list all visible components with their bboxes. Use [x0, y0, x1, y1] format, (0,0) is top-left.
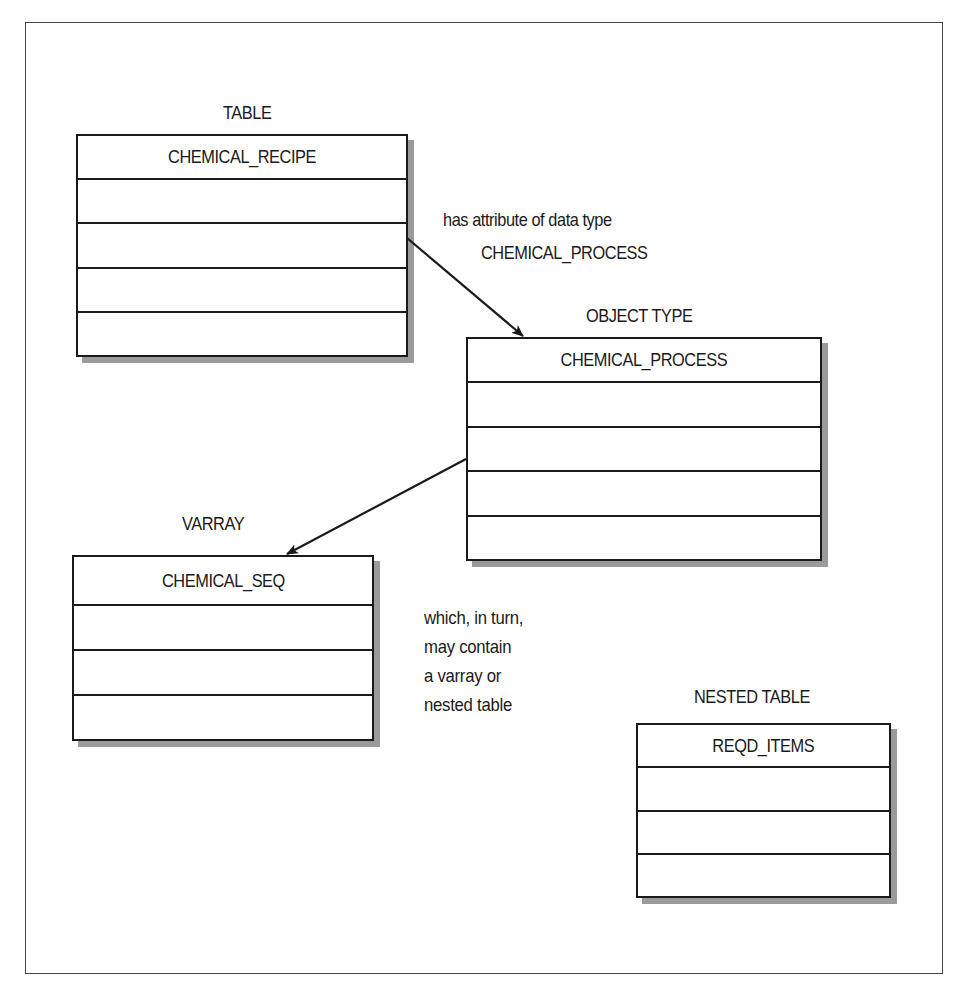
attribute-row [468, 381, 820, 425]
note-line: nested table [424, 690, 523, 719]
attribute-row [74, 694, 372, 739]
entity-kind-label-varray: VARRAY [182, 513, 244, 535]
entity-header: CHEMICAL_RECIPE [78, 136, 406, 178]
attribute-row [78, 311, 406, 355]
note-line: may contain [424, 632, 523, 661]
attribute-row [74, 604, 372, 649]
entity-box-chemical-seq: CHEMICAL_SEQ [72, 555, 374, 741]
entity-name: CHEMICAL_RECIPE [168, 146, 316, 168]
attribute-row [468, 470, 820, 514]
entity-name: REQD_ITEMS [713, 735, 815, 757]
entity-header: CHEMICAL_SEQ [74, 557, 372, 604]
entity-name: CHEMICAL_SEQ [162, 570, 285, 592]
entity-header: REQD_ITEMS [638, 725, 889, 766]
attribute-row [78, 267, 406, 311]
attribute-row [78, 178, 406, 222]
entity-header: CHEMICAL_PROCESS [468, 339, 820, 381]
annotation-note: which, in turn, may contain a varray or … [424, 603, 523, 719]
attribute-row [468, 426, 820, 470]
note-line: which, in turn, [424, 603, 523, 632]
attribute-row [74, 649, 372, 694]
entity-kind-label-nested-table: NESTED TABLE [694, 686, 810, 708]
connection-label-line2: CHEMICAL_PROCESS [481, 242, 648, 264]
entity-box-reqd-items: REQD_ITEMS [636, 723, 891, 898]
entity-box-chemical-process: CHEMICAL_PROCESS [466, 337, 822, 561]
entity-kind-label-object-type: OBJECT TYPE [586, 305, 692, 327]
note-line: a varray or [424, 661, 523, 690]
entity-name: CHEMICAL_PROCESS [561, 349, 728, 371]
attribute-row [78, 222, 406, 266]
attribute-row [468, 515, 820, 559]
connection-label-line1: has attribute of data type [443, 209, 612, 231]
attribute-row [638, 766, 889, 809]
entity-box-chemical-recipe: CHEMICAL_RECIPE [76, 134, 408, 357]
entity-kind-label-table: TABLE [223, 102, 271, 124]
attribute-row [638, 810, 889, 853]
attribute-row [638, 853, 889, 896]
